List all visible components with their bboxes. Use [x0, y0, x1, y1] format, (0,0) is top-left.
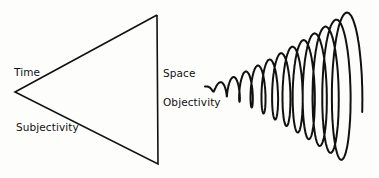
label-subjectivity: Subjectivity — [16, 121, 79, 133]
spiral-shape — [205, 13, 362, 160]
triangle-shape — [15, 15, 158, 164]
label-objectivity: Objectivity — [163, 96, 221, 108]
label-time: Time — [14, 66, 40, 78]
label-space: Space — [163, 67, 196, 79]
diagram-canvas — [0, 0, 379, 178]
